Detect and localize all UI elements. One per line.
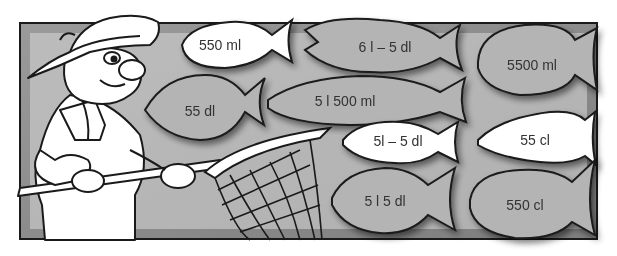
illustration: 550 ml 6 l – 5 dl 5500 ml 55 dl 5 l 500 … — [0, 0, 617, 256]
fish-label: 5 l 500 ml — [315, 93, 376, 109]
fisherman-hand-left — [72, 170, 104, 192]
fish-label: 550 ml — [199, 37, 241, 53]
fish-label: 55 dl — [185, 103, 215, 119]
fish-label: 5500 ml — [507, 57, 557, 73]
fish-label: 55 cl — [520, 132, 550, 148]
fish-label: 5l – 5 dl — [373, 133, 422, 149]
fish-label: 550 cl — [506, 197, 543, 213]
fish-label: 6 l – 5 dl — [359, 39, 412, 55]
fish-label: 5 l 5 dl — [364, 193, 405, 209]
fisherman-nose — [119, 60, 145, 80]
fisherman-hand-right — [161, 164, 195, 188]
